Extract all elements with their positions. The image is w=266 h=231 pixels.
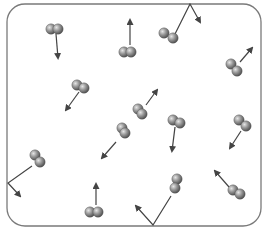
- atom: [170, 183, 180, 193]
- diatomic-molecule: [159, 28, 178, 43]
- atom: [126, 47, 136, 57]
- velocity-arrow: [56, 34, 58, 58]
- atom: [235, 189, 245, 199]
- diatomic-molecule: [30, 150, 45, 167]
- velocity-arrows: [8, 4, 252, 225]
- velocity-arrow: [240, 48, 252, 62]
- molecules: [30, 24, 251, 217]
- diatomic-molecule: [119, 47, 136, 57]
- atom: [79, 83, 89, 93]
- atom: [241, 121, 251, 131]
- atom: [232, 66, 242, 76]
- diatomic-molecule: [170, 174, 182, 193]
- velocity-arrow: [66, 92, 79, 110]
- velocity-arrow: [215, 171, 229, 187]
- diatomic-molecule: [117, 123, 130, 138]
- atom: [120, 128, 130, 138]
- atom: [53, 24, 63, 34]
- wall-bounce-arrow: [173, 4, 200, 38]
- atom: [35, 157, 45, 167]
- velocity-arrow: [102, 142, 116, 158]
- atom: [168, 33, 178, 43]
- atom: [159, 28, 169, 38]
- atom: [175, 118, 185, 128]
- diatomic-molecule: [234, 115, 251, 131]
- atom: [137, 109, 147, 119]
- diatomic-molecule: [168, 115, 185, 128]
- wall-bounce-arrow: [136, 196, 171, 225]
- atom: [172, 174, 182, 184]
- diagram-canvas: [0, 0, 266, 231]
- diatomic-molecule: [72, 80, 89, 93]
- atom: [93, 207, 103, 217]
- diatomic-molecule: [133, 104, 147, 119]
- diatomic-molecule: [85, 207, 103, 217]
- velocity-arrow: [230, 131, 241, 148]
- diatomic-molecule: [46, 24, 63, 34]
- gas-molecules-diagram: [0, 0, 266, 231]
- diatomic-molecule: [228, 185, 245, 199]
- container-box: [7, 4, 261, 226]
- wall-bounce-arrow: [8, 166, 32, 196]
- velocity-arrow: [172, 127, 175, 151]
- velocity-arrow: [146, 90, 157, 105]
